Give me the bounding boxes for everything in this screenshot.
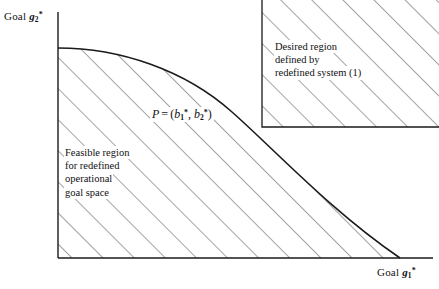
feasible-region-annotation-line-3: operational — [64, 172, 113, 185]
feasible-region-annotation-line-2: for redefined — [64, 159, 121, 172]
y-axis-label-prefix: Goal — [4, 10, 26, 22]
desired-region-annotation-line-2: defined by — [274, 53, 321, 66]
feasible-region-annotation-line-4: goal space — [64, 186, 110, 199]
point-p-comma: , — [188, 107, 191, 121]
figure-canvas: Goal g2* Goal g1* P=(b1*, b2*) Desired r… — [0, 0, 439, 289]
desired-region-annotation-line-1: Desired region — [274, 40, 338, 53]
y-axis-superscript: * — [39, 10, 43, 19]
point-p-equals: = — [159, 107, 170, 121]
x-axis-label-prefix: Goal — [377, 266, 399, 278]
feasible-region-annotation: Feasible region for redefined operationa… — [64, 146, 130, 199]
desired-region-annotation: Desired region defined by redefined syst… — [274, 40, 362, 80]
x-axis-label: Goal g1* — [377, 266, 416, 280]
diagram-graphics — [0, 0, 439, 289]
feasible-region-annotation-line-1: Feasible region — [64, 146, 130, 159]
y-axis-label: Goal g2* — [4, 10, 43, 24]
x-axis-superscript: * — [412, 266, 416, 275]
point-p-close-paren: ) — [208, 107, 212, 121]
point-p-label: P=(b1*, b2*) — [150, 107, 214, 122]
desired-region-annotation-line-3: redefined system (1) — [274, 66, 362, 79]
